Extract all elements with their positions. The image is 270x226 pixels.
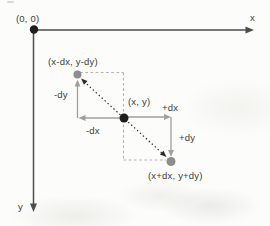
y-axis-label: y [18, 201, 23, 212]
x-axis-arrowhead-icon [246, 27, 255, 34]
diagonal-arrowhead-upleft-icon [81, 79, 88, 85]
plus-dy-label: +dy [179, 132, 195, 143]
plus-dy-arrowhead-icon [168, 150, 174, 157]
plus-dx-label: +dx [162, 102, 178, 113]
center-point-label: (x, y) [128, 96, 150, 107]
minus-dy-arrowhead-icon [75, 80, 81, 87]
minus-dy-label: -dy [54, 89, 68, 100]
axes [30, 27, 254, 213]
bottom-right-point [167, 157, 176, 166]
minus-dx-label: -dx [86, 125, 100, 136]
points [30, 25, 176, 166]
minus-dx-arrowhead-icon [79, 115, 86, 121]
bottom-right-point-label: (x+dx, y+dy) [148, 170, 203, 181]
y-axis-arrowhead-icon [30, 204, 37, 213]
origin-label: (0, 0) [16, 13, 39, 24]
coordinate-diagram: (0, 0) x y (x-dx, y-dy) (x, y) -dy -dx +… [0, 0, 270, 226]
origin-point [30, 25, 38, 33]
diagram-canvas [0, 0, 270, 226]
top-left-point [74, 71, 82, 79]
center-point [120, 114, 129, 123]
x-axis-label: x [250, 12, 255, 23]
plus-dx-arrowhead-icon [164, 114, 171, 120]
top-left-point-label: (x-dx, y-dy) [48, 56, 98, 67]
